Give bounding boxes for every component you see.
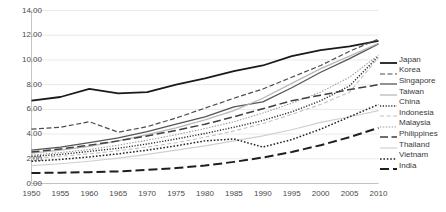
chart-legend: JapanKoreaSingaporeTaiwanChinaIndonesiaM… [380,54,446,171]
legend-swatch-icon [380,54,397,64]
line-chart: 0.002.004.006.008.0010.0012.0014.00 1950… [0,0,446,212]
x-tick-label: 1995 [283,190,301,198]
legend-label: Vietnam [399,150,428,159]
legend-swatch-icon [380,75,397,85]
legend-item-japan[interactable]: Japan [380,54,446,65]
legend-item-korea[interactable]: Korea [380,65,446,76]
legend-label: China [399,97,420,106]
legend-item-philippines[interactable]: Philippines [380,128,446,139]
legend-swatch-icon [380,97,397,107]
legend-swatch-icon [380,139,397,149]
legend-item-india[interactable]: India [380,160,446,171]
legend-label: Singapore [399,76,435,85]
legend-item-malaysia[interactable]: Malaysia [380,118,446,129]
legend-label: Malaysia [399,118,431,127]
legend-label: Korea [399,65,420,74]
x-tick-label: 1980 [196,190,214,198]
legend-label: India [399,161,416,170]
x-tick-label: 2010 [370,190,388,198]
legend-item-vietnam[interactable]: Vietnam [380,149,446,160]
legend-swatch-icon [380,160,397,170]
x-tick-label: 2000 [312,190,330,198]
x-tick-label: 1950 [23,190,41,198]
x-tick-label: 1990 [254,190,272,198]
x-tick-label: 1975 [167,190,185,198]
legend-label: Thailand [399,140,430,149]
legend-item-china[interactable]: China [380,96,446,107]
legend-swatch-icon [380,118,397,128]
legend-label: Indonesia [399,108,434,117]
legend-swatch-icon [380,107,397,117]
legend-label: Taiwan [399,87,424,96]
legend-swatch-icon [380,128,397,138]
x-tick-label: 1960 [80,190,98,198]
legend-item-thailand[interactable]: Thailand [380,139,446,150]
x-tick-label: 1955 [52,190,70,198]
legend-swatch-icon [380,150,397,160]
legend-swatch-icon [380,65,397,75]
x-tick-label: 2005 [341,190,359,198]
x-tick-label: 1970 [138,190,156,198]
x-tick-label: 1985 [225,190,243,198]
legend-item-indonesia[interactable]: Indonesia [380,107,446,118]
legend-label: Japan [399,55,421,64]
x-tick-label: 1965 [109,190,127,198]
legend-item-singapore[interactable]: Singapore [380,75,446,86]
legend-swatch-icon [380,86,397,96]
legend-label: Philippines [399,129,438,138]
legend-item-taiwan[interactable]: Taiwan [380,86,446,97]
